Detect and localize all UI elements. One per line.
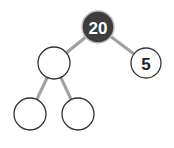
node-root: 20 xyxy=(82,11,114,43)
node-left xyxy=(38,47,70,79)
node-left-right xyxy=(62,98,94,130)
node-right-label: 5 xyxy=(141,55,150,74)
tree-diagram: 20 5 xyxy=(0,0,174,148)
node-root-label: 20 xyxy=(89,19,108,38)
node-left-left xyxy=(14,98,46,130)
node-right: 5 xyxy=(131,48,161,78)
